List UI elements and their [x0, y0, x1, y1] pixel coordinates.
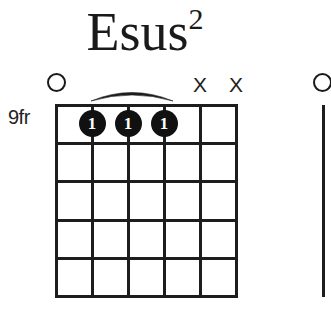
fret-line-2: [55, 180, 238, 183]
string-marker-muted-string-6: X: [223, 72, 249, 98]
string-marker-open-string-1: [43, 73, 69, 105]
fret-line-4: [55, 257, 238, 260]
string-line-1: [55, 104, 58, 298]
next-chord-grid-left-edge: [322, 105, 325, 297]
chord-name-title: Esus2: [0, 2, 290, 62]
fret-line-5: [55, 295, 238, 298]
string-marker-muted-string-5: X: [187, 72, 213, 98]
finger-dot-string-4-fret-1: 1: [151, 110, 178, 137]
fret-line-3: [55, 219, 238, 222]
finger-dot-string-2-fret-1: 1: [79, 110, 106, 137]
fret-line-1: [55, 142, 238, 145]
chord-diagram-page: Esus2 9fr X X 1 1 1: [0, 0, 331, 312]
finger-dot-string-3-fret-1: 1: [115, 110, 142, 137]
fret-position-label: 9fr: [8, 106, 30, 128]
string-line-6: [235, 104, 238, 298]
chord-extension: 2: [189, 2, 204, 35]
barre-arc-icon: [89, 82, 175, 104]
chord-root-quality: Esus: [86, 2, 188, 62]
fret-line-nut: [55, 104, 238, 107]
next-chord-open-marker-icon: [313, 73, 331, 92]
string-line-5: [199, 104, 202, 298]
